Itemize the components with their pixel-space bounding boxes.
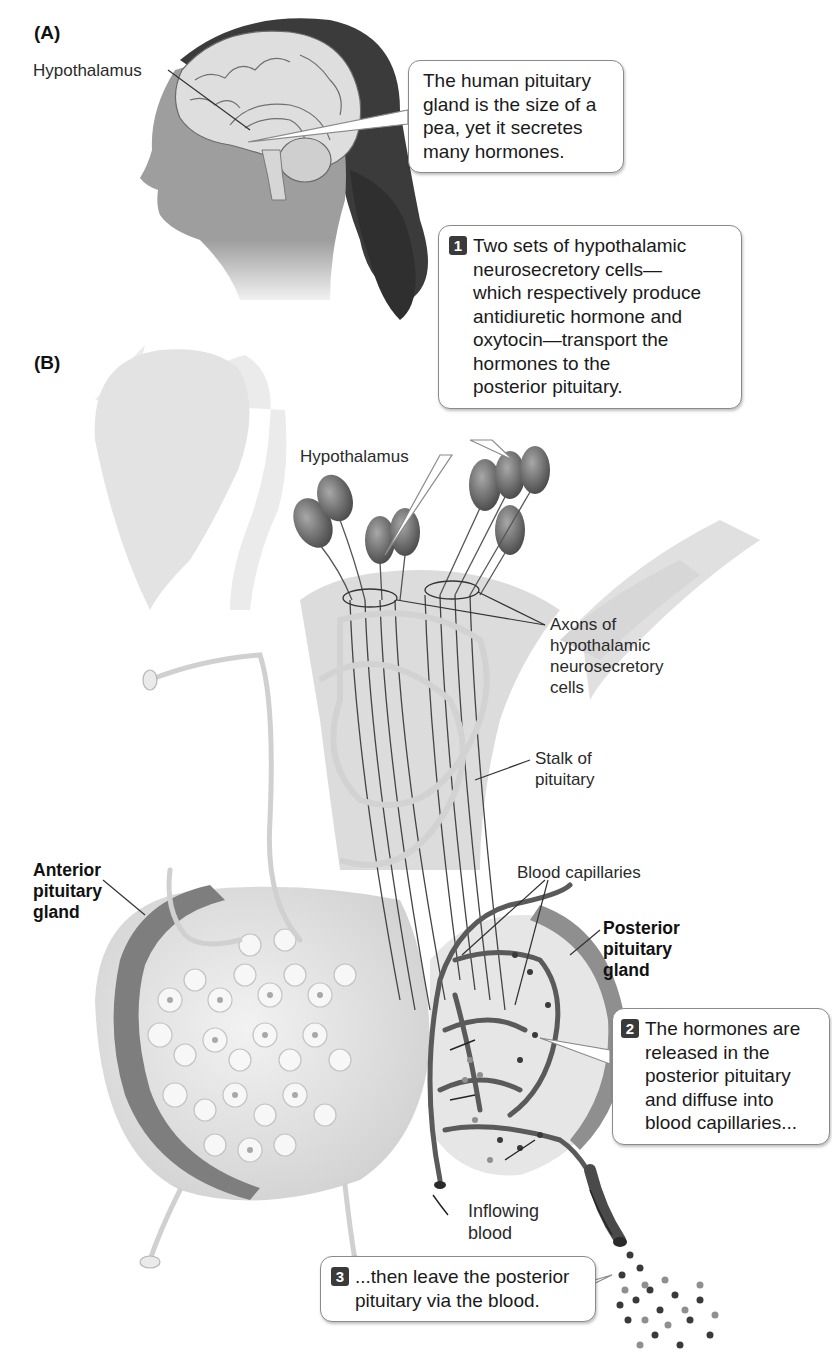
label-axons-line: hypothalamic [550,635,663,656]
callout-a-line: pea, yet it secretes [423,116,611,140]
callout-a-line: gland is the size of a [423,93,611,117]
label-posterior-line: Posterior [603,918,680,939]
label-hypothalamus-b: Hypothalamus [300,446,409,467]
label-anterior-line: pituitary [33,881,102,902]
label-inflowing-line: Inflowing [468,1200,539,1222]
callout-a-line: many hormones. [423,140,611,164]
step-3-line: ...then leave the posterior [355,1265,583,1289]
label-stalk-line: pituitary [535,769,595,790]
step-1-line: neurosecretory cells— [473,258,729,282]
label-anterior-pituitary: Anterior pituitary gland [33,860,102,923]
step-2-line: released in the [645,1041,817,1065]
step-1-line: oxytocin—transport the [473,328,729,352]
pituitary-diagram-artwork [0,0,832,1353]
label-inflowing-line: blood [468,1222,539,1244]
step-1-line: hormones to the [473,352,729,376]
label-anterior-line: gland [33,902,102,923]
panel-b-letter: (B) [34,352,60,374]
step-1-line: antidiuretic hormone and [473,305,729,329]
callout-step-1: 1 Two sets of hypothalamic neurosecretor… [438,225,742,409]
label-inflowing-blood: Inflowing blood [468,1200,539,1244]
label-posterior-line: gland [603,960,680,981]
callout-a-line: The human pituitary [423,69,611,93]
step-1-line: posterior pituitary. [473,375,729,399]
label-axons-line: neurosecretory [550,656,663,677]
callout-pituitary-size: The human pituitary gland is the size of… [408,60,624,173]
step-2-line: The hormones are [645,1017,817,1041]
step-1-line: Two sets of hypothalamic [473,234,729,258]
step-3-line: pituitary via the blood. [355,1289,583,1313]
step-1-line: which respectively produce [473,281,729,305]
label-stalk: Stalk of pituitary [535,748,595,790]
callout-1-tail-right [470,440,513,460]
step-2-badge: 2 [621,1019,639,1038]
label-axons-line: Axons of [550,614,663,635]
label-stalk-line: Stalk of [535,748,595,769]
panel-a-letter: (A) [34,22,60,44]
label-hypothalamus-a: Hypothalamus [33,60,142,81]
label-posterior-pituitary: Posterior pituitary gland [603,918,680,981]
label-axons: Axons of hypothalamic neurosecretory cel… [550,614,663,698]
step-2-line: posterior pituitary [645,1064,817,1088]
step-1-badge: 1 [449,236,467,255]
label-posterior-line: pituitary [603,939,680,960]
head-illustration [140,18,428,320]
label-anterior-line: Anterior [33,860,102,881]
step-3-badge: 3 [331,1267,349,1286]
step-2-line: and diffuse into [645,1088,817,1112]
callout-step-2: 2 The hormones are released in the poste… [612,1008,830,1145]
posterior-pituitary-gland [430,905,625,1175]
label-blood-capillaries: Blood capillaries [517,862,641,883]
label-axons-line: cells [550,677,663,698]
callout-step-3: 3 ...then leave the posterior pituitary … [320,1256,596,1322]
step-2-line: blood capillaries... [645,1111,817,1135]
